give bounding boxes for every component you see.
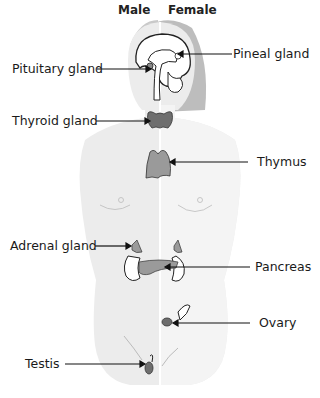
label-testis: Testis — [25, 356, 60, 371]
torso-female-half — [160, 105, 240, 385]
header-male: Male — [118, 3, 150, 17]
label-pineal-gland: Pineal gland — [233, 46, 309, 61]
ovary — [162, 318, 172, 326]
header-female: Female — [168, 3, 217, 17]
kidney-left — [124, 256, 140, 281]
label-thymus: Thymus — [257, 154, 307, 169]
label-thyroid-gland: Thyroid gland — [12, 113, 98, 128]
testis — [145, 362, 153, 374]
label-pituitary-gland: Pituitary gland — [12, 61, 103, 76]
label-pancreas: Pancreas — [255, 259, 311, 274]
label-ovary: Ovary — [259, 315, 296, 330]
thymus — [146, 150, 171, 178]
label-adrenal-gland: Adrenal gland — [10, 238, 97, 253]
thyroid-gland — [148, 112, 173, 128]
